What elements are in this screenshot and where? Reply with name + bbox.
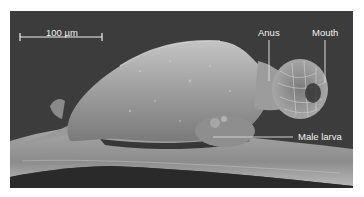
scale-bar-label: 100 µm: [46, 28, 78, 38]
male-larva-label: Male larva: [298, 132, 342, 142]
anus-label: Anus: [258, 28, 280, 38]
mouth-label: Mouth: [312, 28, 338, 38]
micrograph-image: 100 µm Anus Mouth Male larva: [10, 11, 353, 188]
